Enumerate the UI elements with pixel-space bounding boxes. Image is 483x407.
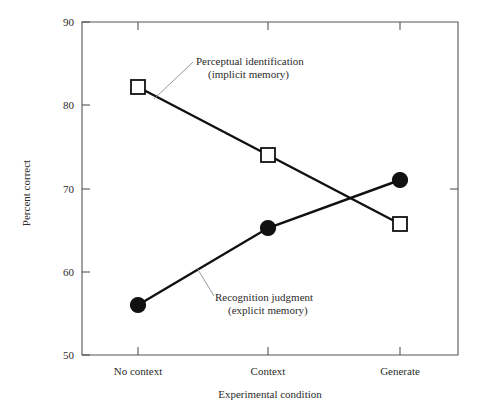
annotation-implicit-line1: Perceptual identification: [196, 55, 304, 67]
line-chart: 50 60 70 80 90 No context Context Genera…: [0, 0, 483, 407]
y-tick-label-50: 50: [63, 349, 75, 361]
y-tick-label-60: 60: [63, 266, 75, 278]
annotation-explicit-line1: Recognition judgment: [215, 291, 313, 303]
data-point-explicit-generate: [393, 173, 408, 188]
x-tick-label-context: Context: [251, 365, 286, 377]
chart-figure: 50 60 70 80 90 No context Context Genera…: [0, 0, 483, 407]
data-point-implicit-generate: [393, 217, 407, 231]
data-point-explicit-context: [261, 221, 276, 236]
annotation-implicit-line2: (implicit memory): [208, 68, 289, 81]
x-tick-label-no-context: No context: [114, 365, 163, 377]
data-point-implicit-no-context: [131, 80, 145, 94]
data-point-implicit-context: [261, 148, 275, 162]
y-tick-label-90: 90: [63, 16, 75, 28]
x-axis-title: Experimental condition: [218, 388, 322, 400]
annotation-explicit-line2: (explicit memory): [228, 304, 308, 317]
x-tick-label-generate: Generate: [380, 365, 420, 377]
y-tick-label-80: 80: [63, 99, 75, 111]
data-point-explicit-no-context: [131, 298, 146, 313]
y-tick-label-70: 70: [63, 183, 75, 195]
y-axis-title: Percent correct: [20, 160, 32, 226]
